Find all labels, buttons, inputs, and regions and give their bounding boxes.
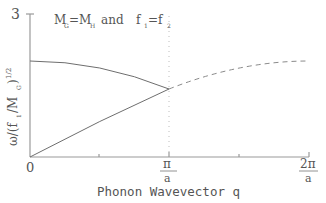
x-tick-label-pi-over-a: π a bbox=[160, 157, 177, 185]
svg-text:a: a bbox=[305, 172, 312, 185]
svg-text:and: and bbox=[101, 13, 124, 27]
acoustic-branch bbox=[30, 89, 169, 157]
svg-text:1/2: 1/2 bbox=[5, 68, 13, 79]
svg-text:/M: /M bbox=[6, 97, 20, 113]
svg-text:G: G bbox=[15, 85, 22, 90]
x-tick-label-2pi-over-a: 2π a bbox=[299, 157, 318, 185]
svg-text:1: 1 bbox=[15, 114, 22, 118]
svg-text:2: 2 bbox=[167, 22, 171, 29]
svg-text:π: π bbox=[163, 157, 171, 171]
optical-branch bbox=[30, 61, 169, 89]
svg-text:=f: =f bbox=[148, 13, 164, 27]
dispersion-chart: 3 M G =M H and f 1 =f 2 0 π a 2π a Phono… bbox=[0, 0, 326, 203]
svg-text:H: H bbox=[90, 22, 95, 29]
y-tick-label-3: 3 bbox=[11, 6, 20, 22]
svg-text:2π: 2π bbox=[300, 157, 316, 171]
svg-text:ω/(f: ω/(f bbox=[6, 121, 20, 146]
y-axis-label: ω/(f 1 /M G ) 1/2 bbox=[5, 68, 22, 146]
x-axis-label: Phonon Wavevector q bbox=[97, 184, 240, 199]
extended-zone-branch bbox=[169, 61, 309, 89]
svg-text:f: f bbox=[136, 13, 142, 27]
svg-text:=M: =M bbox=[69, 13, 91, 27]
svg-text:): ) bbox=[6, 79, 20, 84]
x-tick-label-0: 0 bbox=[26, 160, 34, 175]
chart-title: M G =M H and f 1 =f 2 bbox=[54, 13, 171, 29]
